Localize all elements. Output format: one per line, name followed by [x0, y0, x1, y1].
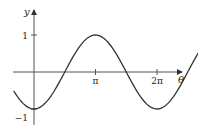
x-tick-label: π	[93, 76, 99, 86]
y-tick-label: 1	[22, 31, 28, 41]
x-axis-label: θ	[178, 74, 184, 85]
x-tick-label: 2π	[151, 76, 163, 86]
chart: π2π 1−1 θ y	[0, 0, 198, 132]
y-tick-label: −1	[15, 113, 28, 123]
y-axis-label: y	[23, 6, 30, 17]
